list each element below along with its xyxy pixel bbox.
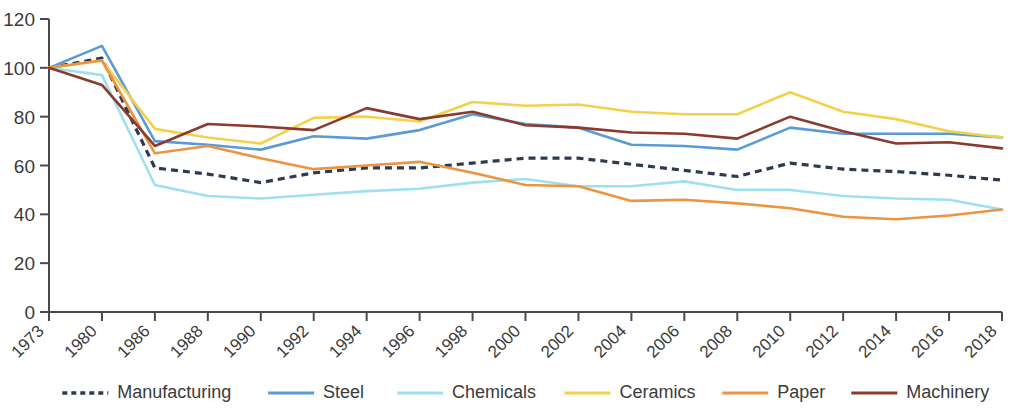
legend-label-paper: Paper (777, 382, 825, 402)
series-line-manufacturing (49, 58, 1002, 183)
series-line-paper (49, 61, 1002, 220)
legend-label-steel: Steel (323, 382, 364, 402)
x-tick-label: 1986 (114, 321, 154, 361)
x-tick-label: 2016 (908, 321, 948, 361)
x-axis-group: 1973198019861988199019921994199619982000… (8, 312, 1002, 362)
legend-label-ceramics: Ceramics (620, 382, 696, 402)
x-tick-label: 2004 (590, 321, 630, 361)
x-tick-label: 2002 (537, 321, 577, 361)
x-tick-label: 2012 (802, 321, 842, 361)
series-line-chemicals (49, 68, 1002, 210)
chart-canvas: 020406080100120 197319801986198819901992… (0, 0, 1019, 416)
x-tick-label: 2014 (855, 321, 895, 361)
series-group (49, 46, 1002, 219)
x-tick-group: 1973198019861988199019921994199619982000… (8, 312, 1002, 362)
line-chart: 020406080100120 197319801986198819901992… (0, 0, 1019, 416)
y-axis-group: 020406080100120 (3, 9, 49, 323)
y-tick-label: 120 (3, 9, 35, 30)
x-tick-label: 2008 (696, 321, 736, 361)
x-tick-label: 2006 (643, 321, 683, 361)
y-tick-group: 020406080100120 (3, 9, 49, 323)
legend-label-chemicals: Chemicals (452, 382, 536, 402)
x-tick-label: 2000 (484, 321, 524, 361)
series-line-machinery (49, 68, 1002, 149)
x-tick-label: 2018 (961, 321, 1001, 361)
y-tick-label: 60 (14, 156, 35, 177)
y-tick-label: 100 (3, 58, 35, 79)
y-tick-label: 40 (14, 204, 35, 225)
chart-legend: ManufacturingSteelChemicalsCeramicsPaper… (62, 382, 989, 402)
x-tick-label: 1990 (219, 321, 259, 361)
x-tick-label: 1998 (431, 321, 471, 361)
x-tick-label: 1992 (272, 321, 312, 361)
y-tick-label: 0 (24, 302, 35, 323)
x-tick-label: 1973 (8, 321, 48, 361)
y-tick-label: 20 (14, 253, 35, 274)
x-tick-label: 1994 (325, 321, 365, 361)
x-tick-label: 2010 (749, 321, 789, 361)
y-tick-label: 80 (14, 107, 35, 128)
x-tick-label: 1988 (166, 321, 206, 361)
x-tick-label: 1980 (61, 321, 101, 361)
legend-label-machinery: Machinery (906, 382, 989, 402)
legend-label-manufacturing: Manufacturing (117, 382, 231, 402)
x-tick-label: 1996 (378, 321, 418, 361)
